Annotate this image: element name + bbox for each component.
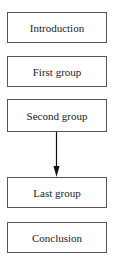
introduction-box: Introduction xyxy=(7,12,107,43)
first-group-label: First group xyxy=(33,66,82,78)
second-group-label: Second group xyxy=(27,110,88,122)
conclusion-box: Conclusion xyxy=(7,222,107,253)
last-group-label: Last group xyxy=(33,187,80,199)
first-group-box: First group xyxy=(7,56,107,87)
last-group-box: Last group xyxy=(7,177,107,208)
second-group-box: Second group xyxy=(7,99,107,132)
conclusion-label: Conclusion xyxy=(32,232,82,244)
introduction-label: Introduction xyxy=(30,22,84,34)
